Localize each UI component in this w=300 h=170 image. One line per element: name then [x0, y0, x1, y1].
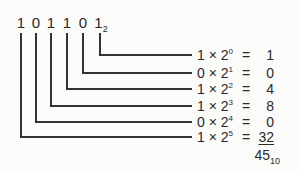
connector-horizontal-bit5 [20, 136, 192, 138]
connector-vertical-bit2 [66, 33, 68, 90]
connector-vertical-bit0 [99, 33, 101, 56]
binary-digit-4: 0 [32, 15, 40, 30]
equals-sign: = [242, 66, 250, 80]
term-value-bit5: 32 [258, 130, 274, 144]
equals-sign: = [242, 99, 250, 113]
binary-digit-1: 0 [79, 15, 87, 30]
binary-digit-5: 1 [17, 15, 25, 30]
term-bit5: 1 × 25 [197, 130, 233, 147]
connector-horizontal-bit4 [35, 121, 192, 123]
term-value-bit4: 0 [266, 115, 274, 129]
binary-digit-3: 1 [47, 15, 55, 30]
term-value-bit0: 1 [266, 48, 274, 62]
term-bit2: 1 × 22 [197, 82, 233, 99]
term-value-bit1: 0 [266, 66, 274, 80]
base-subscript: 2 [103, 24, 108, 34]
connector-vertical-bit5 [20, 33, 22, 138]
binary-digit-2: 1 [63, 15, 71, 30]
equals-sign: = [242, 115, 250, 129]
connector-vertical-bit1 [82, 33, 84, 74]
connector-horizontal-bit0 [99, 54, 192, 56]
equals-sign: = [242, 130, 250, 144]
equals-sign: = [242, 48, 250, 62]
term-bit0: 1 × 20 [197, 48, 233, 65]
binary-digit-0: 12 [94, 15, 107, 33]
decimal-result: 4510 [254, 148, 280, 164]
connector-horizontal-bit2 [66, 88, 192, 90]
connector-vertical-bit4 [35, 33, 37, 123]
connector-horizontal-bit3 [50, 105, 192, 107]
connector-horizontal-bit1 [82, 72, 192, 74]
connector-vertical-bit3 [50, 33, 52, 107]
term-value-bit3: 8 [266, 99, 274, 113]
term-value-bit2: 4 [266, 82, 274, 96]
result-base-subscript: 10 [270, 156, 280, 166]
equals-sign: = [242, 82, 250, 96]
